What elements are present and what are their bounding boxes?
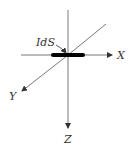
label-pointer	[56, 45, 66, 53]
y-axis	[22, 55, 68, 91]
coordinate-diagram: IdS X Y Z	[0, 0, 132, 151]
element-label: IdS	[35, 36, 55, 49]
x-axis-label: X	[116, 49, 126, 62]
y-axis-upper	[68, 24, 106, 55]
y-axis-label: Y	[9, 90, 18, 103]
z-axis-label: Z	[63, 133, 72, 146]
